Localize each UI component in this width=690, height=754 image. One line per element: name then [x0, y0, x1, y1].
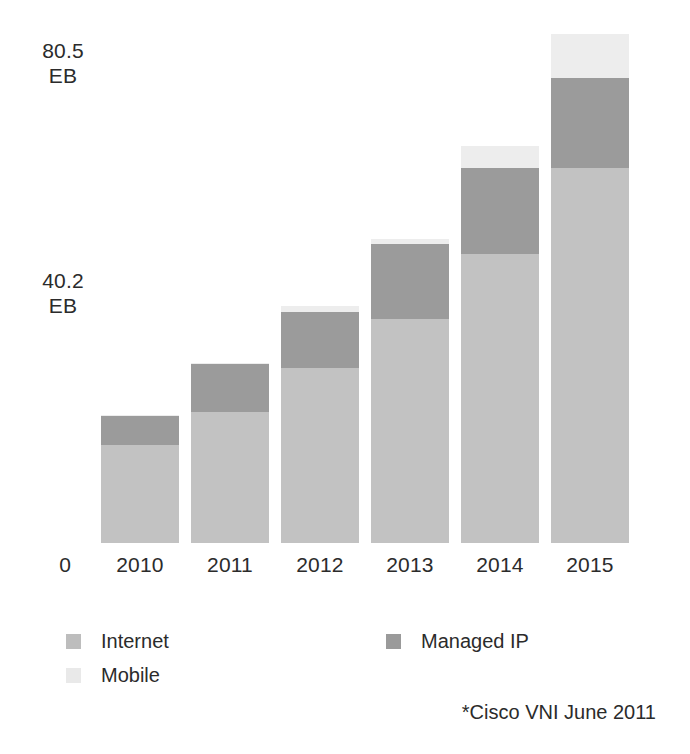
legend-swatch-managed-ip-icon [386, 634, 401, 649]
bar-segment-internet-2013[interactable] [371, 319, 449, 543]
legend-item-managed-ip[interactable]: Managed IP [386, 630, 529, 652]
plot-area [101, 40, 641, 543]
bar-segment-managed-ip-2011[interactable] [191, 364, 269, 412]
legend-label-mobile: Mobile [101, 664, 160, 686]
bar-segment-mobile-2015[interactable] [551, 34, 629, 77]
x-axis-tick-2010: 2010 [101, 552, 179, 577]
bar-segment-mobile-2014[interactable] [461, 146, 539, 168]
legend-item-internet[interactable]: Internet [66, 630, 169, 652]
x-axis-tick-2014: 2014 [461, 552, 539, 577]
bar-segment-managed-ip-2013[interactable] [371, 244, 449, 319]
bar-segment-internet-2015[interactable] [551, 168, 629, 543]
bar-stack-2010 [101, 415, 179, 543]
bar-segment-managed-ip-2010[interactable] [101, 416, 179, 445]
bar-stack-2011 [191, 363, 269, 543]
legend-item-mobile[interactable]: Mobile [66, 664, 160, 686]
bar-segment-managed-ip-2015[interactable] [551, 78, 629, 169]
bar-stack-2013 [371, 239, 449, 543]
x-axis-tick-2015: 2015 [551, 552, 629, 577]
bar-segment-internet-2014[interactable] [461, 254, 539, 543]
x-axis-tick-2011: 2011 [191, 552, 269, 577]
x-axis-tick-2012: 2012 [281, 552, 359, 577]
chart-legend: Internet Mobile Managed IP [66, 628, 626, 690]
bar-segment-managed-ip-2014[interactable] [461, 168, 539, 254]
legend-swatch-mobile-icon [66, 668, 81, 683]
bar-segment-managed-ip-2012[interactable] [281, 312, 359, 368]
bar-stack-2012 [281, 306, 359, 543]
y-axis-label-zero: 0 [52, 552, 78, 577]
y-axis-label-mid: 40.2 EB [20, 268, 106, 318]
legend-label-managed-ip: Managed IP [421, 630, 529, 652]
y-axis-label-top: 80.5 EB [20, 38, 106, 88]
source-note: *Cisco VNI June 2011 [462, 700, 656, 724]
bar-stack-2015 [551, 34, 629, 543]
y-axis-top-value: 80.5 [20, 38, 106, 63]
legend-swatch-internet-icon [66, 634, 81, 649]
bar-stack-2014 [461, 146, 539, 543]
stacked-bar-chart: 80.5 EB 40.2 EB 0 2010201120122013201420… [0, 0, 690, 754]
y-axis-top-unit: EB [20, 63, 106, 88]
legend-label-internet: Internet [101, 630, 169, 652]
bar-segment-internet-2011[interactable] [191, 412, 269, 543]
bar-segment-internet-2010[interactable] [101, 445, 179, 543]
y-axis-mid-value: 40.2 [20, 268, 106, 293]
x-axis-tick-2013: 2013 [371, 552, 449, 577]
bar-segment-internet-2012[interactable] [281, 368, 359, 543]
y-axis-mid-unit: EB [20, 293, 106, 318]
